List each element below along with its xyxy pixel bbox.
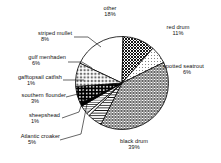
pie-chart: other 18% red drum 11% spotted seatrout … (0, 0, 221, 163)
slice-label-red-drum: red drum 11% (156, 24, 200, 37)
slice-label-sheepshead-pct: 1% (10, 118, 60, 124)
pie-slices (75, 36, 168, 129)
slice-label-gafftopsail-catfish-pct: 1% (0, 80, 62, 86)
slice-label-striped-mullet: striped mullet 8% (18, 30, 72, 43)
slice-label-spotted-seatrout: spotted seatrout 6% (163, 63, 221, 76)
slice-label-sheepshead: sheepshead 1% (10, 112, 60, 125)
slice-label-other: other 18% (88, 5, 132, 18)
slice-label-atlantic-croaker-pct: 5% (4, 139, 60, 145)
slice-label-other-pct: 18% (88, 11, 132, 17)
slice-label-black-drum-pct: 39% (110, 144, 158, 150)
slice-label-spotted-seatrout-name: spotted seatrout (163, 63, 221, 69)
slice-label-black-drum: black drum 39% (110, 138, 158, 151)
slice-label-gulf-menhaden: gulf menhaden 6% (6, 54, 66, 67)
slice-label-southern-flounder: southern flounder 3% (4, 92, 66, 105)
slice-label-striped-mullet-pct: 8% (18, 36, 72, 42)
slice-label-red-drum-pct: 11% (156, 30, 200, 36)
slice-label-spotted-seatrout-pct: 6% (163, 69, 211, 75)
slice-label-southern-flounder-pct: 3% (4, 98, 66, 104)
slice-label-atlantic-croaker: Atlantic croaker 5% (4, 133, 60, 146)
slice-label-gafftopsail-catfish: gafftopsail catfish 1% (0, 74, 62, 87)
slice-label-gulf-menhaden-pct: 6% (6, 60, 66, 66)
